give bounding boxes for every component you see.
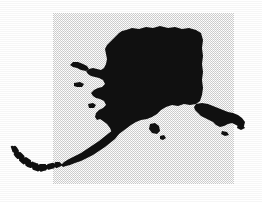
seward-peninsula-shape [70,62,89,71]
southeast-panhandle-shape [194,103,245,127]
alaska-map-canvas [0,0,262,202]
kodiak-islet-shape [160,135,166,140]
mainland-alaska-shape [86,26,203,136]
aleutian-islands-shape [12,146,61,171]
alaska-peninsula-shape [61,130,119,167]
alaska-map-figure [0,0,262,202]
alaska-landmass-group [12,26,245,171]
kodiak-island-shape [149,123,160,134]
st-lawrence-island-shape [74,82,84,87]
nunivak-island-shape [88,103,96,108]
